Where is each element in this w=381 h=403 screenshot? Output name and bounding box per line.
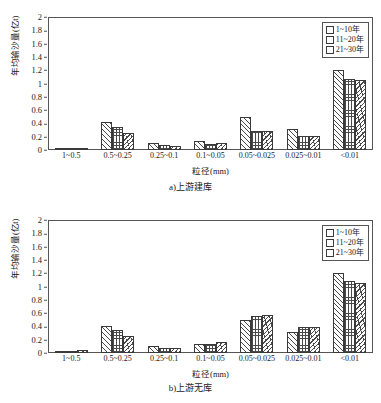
bar xyxy=(66,351,77,353)
legend-item: 11~20年 xyxy=(326,238,364,247)
bar xyxy=(159,348,170,353)
y-tick-label: 0.6 xyxy=(31,309,42,318)
bar xyxy=(251,131,262,150)
y-tick-label: 1.6 xyxy=(31,242,42,251)
y-tick-label: 0.4 xyxy=(31,322,42,331)
bar xyxy=(216,143,227,150)
y-tick-label: 0.6 xyxy=(31,106,42,115)
y-tick-label: 1.8 xyxy=(31,229,42,238)
legend-swatch-icon xyxy=(326,249,334,257)
bar-group xyxy=(48,220,94,353)
legend-swatch-icon xyxy=(326,46,334,54)
y-axis-ticks-a: 21.81.61.41.210.80.60.40.20 xyxy=(0,17,48,150)
bar-group xyxy=(94,220,140,353)
y-tick-label: 0.8 xyxy=(31,296,42,305)
legend-swatch-icon xyxy=(326,26,334,34)
bar xyxy=(262,315,273,353)
legend-swatch-icon xyxy=(326,229,334,237)
bar xyxy=(101,122,112,150)
bar xyxy=(55,351,66,353)
bar-group xyxy=(187,220,233,353)
y-tick-label: 0 xyxy=(38,349,42,358)
legend-a: 1~10年11~20年21~30年 xyxy=(322,22,369,58)
y-tick-label: 0 xyxy=(38,146,42,155)
y-tick-label: 0.2 xyxy=(31,335,42,344)
bar xyxy=(287,129,298,150)
bar xyxy=(344,79,355,150)
y-tick-label: 2 xyxy=(38,216,42,225)
y-tick-label: 1 xyxy=(38,79,42,88)
bar xyxy=(240,117,251,150)
legend-item: 21~30年 xyxy=(326,248,364,257)
bar-group xyxy=(234,17,280,150)
legend-label: 1~10年 xyxy=(336,228,360,237)
y-tick-label: 1.8 xyxy=(31,26,42,35)
bar xyxy=(298,327,309,353)
bar xyxy=(77,350,88,353)
legend-label: 21~30年 xyxy=(336,45,364,54)
bar xyxy=(287,332,298,353)
y-tick-label: 1.6 xyxy=(31,39,42,48)
bar xyxy=(355,283,366,353)
legend-label: 1~10年 xyxy=(336,25,360,34)
bar xyxy=(55,148,66,150)
bar xyxy=(205,344,216,353)
bar-group xyxy=(48,17,94,150)
legend-label: 11~20年 xyxy=(336,35,364,44)
bar xyxy=(170,146,181,150)
figure-caption-b: b)上游无库 xyxy=(0,381,381,394)
bar-group xyxy=(187,17,233,150)
bar xyxy=(148,346,159,353)
y-tick-label: 1.2 xyxy=(31,269,42,278)
y-tick-label: 0.2 xyxy=(31,132,42,141)
bar xyxy=(240,320,251,353)
bar xyxy=(333,70,344,150)
x-axis-title-a: 粒径(mm) xyxy=(48,164,373,176)
bar xyxy=(194,344,205,353)
legend-label: 11~20年 xyxy=(336,238,364,247)
bar xyxy=(170,348,181,353)
figure-b-upstream-no-reservoir: 年均输沙量(亿t) 21.81.61.41.210.80.60.40.20 1~… xyxy=(0,203,381,403)
figure-a-upstream-reservoir: 年均输沙量(亿t) 21.81.61.41.210.80.60.40.20 1~… xyxy=(0,0,381,205)
legend-swatch-icon xyxy=(326,36,334,44)
y-tick-label: 0.8 xyxy=(31,93,42,102)
legend-item: 11~20年 xyxy=(326,35,364,44)
bar xyxy=(344,281,355,353)
legend-item: 21~30年 xyxy=(326,45,364,54)
bar xyxy=(309,136,320,150)
bar xyxy=(123,133,134,150)
y-axis-ticks-b: 21.81.61.41.210.80.60.40.20 xyxy=(0,220,48,353)
bar xyxy=(298,136,309,150)
legend-swatch-icon xyxy=(326,239,334,247)
bar-group xyxy=(280,220,326,353)
bar-group xyxy=(141,220,187,353)
chart-a: 年均输沙量(亿t) 21.81.61.41.210.80.60.40.20 1~… xyxy=(0,0,381,178)
bar xyxy=(251,316,262,353)
bar-group xyxy=(94,17,140,150)
legend-b: 1~10年11~20年21~30年 xyxy=(322,225,369,261)
y-tick-label: 1 xyxy=(38,282,42,291)
bar xyxy=(77,148,88,150)
bar xyxy=(309,327,320,353)
y-tick-label: 0.4 xyxy=(31,119,42,128)
y-tick-label: 1.4 xyxy=(31,53,42,62)
bar xyxy=(205,144,216,150)
x-axis-title-b: 粒径(mm) xyxy=(48,367,373,379)
legend-item: 1~10年 xyxy=(326,228,364,237)
y-tick-label: 1.2 xyxy=(31,66,42,75)
bar xyxy=(216,342,227,353)
bar xyxy=(333,273,344,353)
figure-caption-a: a)上游建库 xyxy=(0,180,381,193)
y-tick-label: 2 xyxy=(38,13,42,22)
bar-group xyxy=(280,17,326,150)
bar xyxy=(355,80,366,150)
bar xyxy=(112,127,123,150)
bar xyxy=(101,326,112,353)
legend-label: 21~30年 xyxy=(336,248,364,257)
bar xyxy=(159,145,170,150)
bar xyxy=(148,143,159,150)
y-tick-label: 1.4 xyxy=(31,256,42,265)
legend-item: 1~10年 xyxy=(326,25,364,34)
bar xyxy=(194,141,205,150)
chart-b: 年均输沙量(亿t) 21.81.61.41.210.80.60.40.20 1~… xyxy=(0,203,381,381)
